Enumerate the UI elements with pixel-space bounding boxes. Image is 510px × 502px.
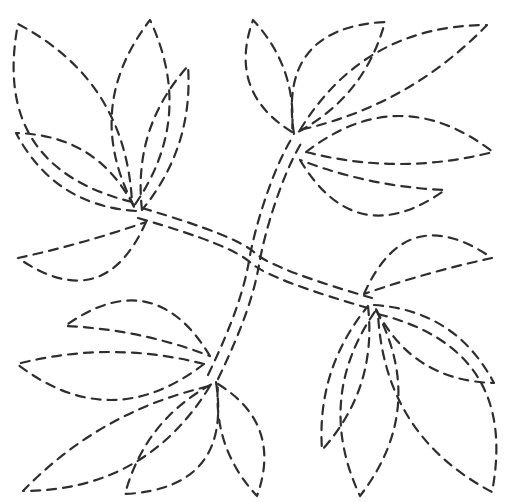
stem-bottomleft-to-topright-line-1 — [208, 138, 292, 375]
leaf-bottom-left-4 — [17, 352, 204, 400]
leaf-bottom-left-1 — [217, 384, 264, 496]
leaf-top-right-4 — [306, 116, 493, 164]
pattern-canvas — [0, 0, 510, 502]
leaf-top-left-5 — [18, 222, 146, 281]
leaf-bottom-left-3 — [23, 386, 210, 491]
leaf-bottom-left-5 — [65, 300, 210, 356]
leaf-pattern-svg — [0, 0, 510, 502]
stem-bottomleft-to-topright-line-2 — [218, 142, 302, 379]
leaf-top-right-1 — [246, 20, 293, 132]
leaf-bottom-right-5 — [364, 235, 492, 294]
stem-topleft-to-bottomright-line-1 — [142, 208, 372, 298]
stem-topleft-to-bottomright-line-2 — [138, 218, 368, 308]
leaf-top-right-5 — [300, 160, 445, 216]
leaf-top-left-4 — [16, 133, 136, 211]
leaf-bottom-left-2 — [125, 382, 218, 494]
leaf-top-right-2 — [292, 22, 385, 134]
leaf-bottom-right-4 — [374, 305, 494, 383]
leaf-top-right-3 — [300, 25, 487, 130]
